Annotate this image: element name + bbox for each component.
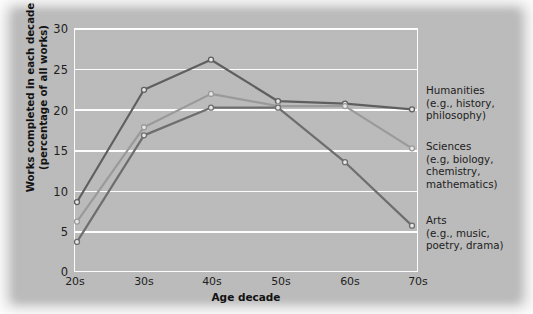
x-tick-70s: 70s — [398, 275, 438, 288]
data-point-sciences-70s — [410, 146, 415, 151]
series-label-arts: Arts (e.g., music, poetry, drama) — [426, 214, 533, 252]
x-tick-30s: 30s — [124, 275, 164, 288]
series-label-sciences-line3: chemistry, — [426, 165, 533, 178]
series-label-sciences-line1: Sciences — [426, 140, 533, 153]
series-label-sciences-line4: mathematics) — [426, 178, 533, 191]
data-point-humanities-30s — [142, 87, 147, 92]
data-point-arts-40s — [209, 105, 214, 110]
x-tick-60s: 60s — [330, 275, 370, 288]
series-label-humanities-line1: Humanities — [426, 84, 533, 97]
y-axis-title: Works completed in each decade (percenta… — [25, 0, 50, 198]
series-lines-svg — [74, 28, 418, 272]
data-point-humanities-20s — [75, 200, 80, 205]
series-line-sciences — [77, 94, 412, 222]
series-label-arts-line3: poetry, drama) — [426, 239, 533, 252]
x-tick-50s: 50s — [261, 275, 301, 288]
data-point-arts-70s — [410, 223, 415, 228]
data-point-arts-30s — [142, 133, 147, 138]
series-label-sciences-line2: (e.g, biology, — [426, 153, 533, 166]
series-label-humanities: Humanities (e.g., history, philosophy) — [426, 84, 533, 122]
series-label-sciences: Sciences (e.g, biology, chemistry, mathe… — [426, 140, 533, 190]
y-axis-title-line1: Works completed in each decade — [25, 3, 36, 192]
data-point-sciences-30s — [142, 125, 147, 130]
series-label-humanities-line3: philosophy) — [426, 109, 533, 122]
series-line-humanities — [77, 60, 412, 202]
data-point-sciences-40s — [209, 91, 214, 96]
x-tick-40s: 40s — [192, 275, 232, 288]
series-label-humanities-line2: (e.g., history, — [426, 97, 533, 110]
y-axis-title-line2: (percentage of all works) — [37, 25, 48, 170]
data-point-arts-20s — [75, 239, 80, 244]
data-point-sciences-20s — [75, 219, 80, 224]
data-point-humanities-70s — [410, 107, 415, 112]
x-tick-20s: 20s — [55, 275, 95, 288]
x-axis-title: Age decade — [74, 291, 418, 303]
chart-screenshot: 30 25 20 15 10 5 0 20s 30s 40s 50s 60s 7… — [0, 0, 533, 314]
series-label-arts-line2: (e.g., music, — [426, 227, 533, 240]
data-point-humanities-40s — [209, 57, 214, 62]
data-point-sciences-60s — [343, 104, 348, 109]
series-group — [75, 57, 415, 244]
data-point-arts-50s — [276, 105, 281, 110]
series-line-arts — [77, 108, 412, 242]
plot-area — [74, 28, 418, 272]
series-label-arts-line1: Arts — [426, 214, 533, 227]
data-point-arts-60s — [343, 160, 348, 165]
